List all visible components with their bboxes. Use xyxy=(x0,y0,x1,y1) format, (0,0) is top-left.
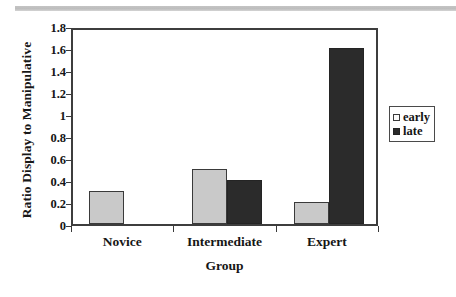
legend-item-early: early xyxy=(393,110,430,124)
y-axis-tick-label: 0.4 xyxy=(30,176,66,189)
open-square-icon xyxy=(393,114,400,121)
bar-expert-early xyxy=(294,202,329,224)
x-axis-category-label-intermediate: Intermediate xyxy=(173,234,275,250)
x-axis-category-label-novice: Novice xyxy=(71,234,173,250)
chart-legend: earlylate xyxy=(389,106,435,142)
legend-item-late: late xyxy=(393,124,430,138)
bar-intermediate-late xyxy=(227,180,262,224)
y-axis-tick-label: 0 xyxy=(30,220,66,233)
y-axis-tick-label: 1.2 xyxy=(30,88,66,101)
x-axis-category-label-expert: Expert xyxy=(276,234,378,250)
y-axis-tick-label: 0.8 xyxy=(30,132,66,145)
x-axis-tick-mark xyxy=(71,226,72,232)
y-axis-tick-label: 1.8 xyxy=(30,22,66,35)
bars-container xyxy=(73,30,376,224)
y-axis-tick-label: 1.6 xyxy=(30,44,66,57)
legend-label: early xyxy=(403,111,430,124)
filled-square-icon xyxy=(393,128,400,135)
y-axis-tick-label: 0.2 xyxy=(30,198,66,211)
x-axis-tick-mark xyxy=(378,226,379,232)
y-axis-tick-label: 0.6 xyxy=(30,154,66,167)
x-axis-tick-mark xyxy=(173,226,174,232)
x-axis-title: Group xyxy=(71,258,378,274)
y-axis-tick-label: 1.4 xyxy=(30,66,66,79)
bar-chart-figure: Ratio Display to Manipulative 00.20.40.6… xyxy=(0,0,456,297)
bar-novice-early xyxy=(89,191,124,224)
bar-intermediate-early xyxy=(192,169,227,224)
plot-area xyxy=(71,28,378,226)
legend-label: late xyxy=(403,125,422,138)
bar-expert-late xyxy=(329,48,364,224)
y-axis-tick-labels: 00.20.40.60.811.21.41.61.8 xyxy=(30,28,66,226)
x-axis-tick-mark xyxy=(276,226,277,232)
y-axis-tick-label: 1 xyxy=(30,110,66,123)
